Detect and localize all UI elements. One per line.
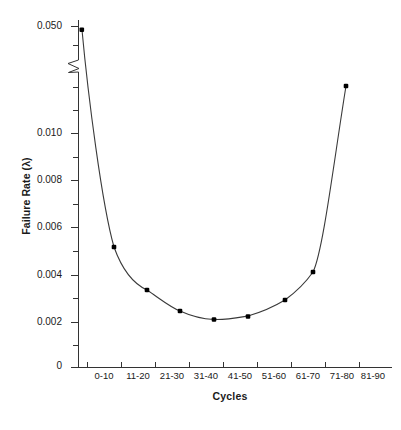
data-series-line [82,30,346,320]
chart-figure: Failure Rate (λ) 0.050 0.010 0.008 0.006… [0,0,401,430]
y-axis-minor-ticks [73,46,79,346]
y-tick-label: 0.004 [10,270,62,280]
y-tick-label: 0.050 [10,21,62,31]
data-point [283,298,288,303]
x-tick-label: 81-90 [350,370,396,381]
y-tick-label: 0 [10,361,62,371]
axis-break-icon [68,60,79,73]
data-point [80,28,85,33]
y-tick-label: 0.006 [10,222,62,232]
data-point [311,270,316,275]
axis-spines [79,20,393,368]
data-point-markers [80,28,349,322]
data-point [145,288,150,293]
y-tick-label: 0.002 [10,317,62,327]
x-axis-title: Cycles [70,390,390,402]
data-point [178,309,183,314]
y-tick-label: 0.008 [10,175,62,185]
data-point [344,84,349,89]
data-point [246,314,251,319]
caption-remnant [12,416,392,426]
y-axis-tick-labels: 0.050 0.010 0.008 0.006 0.004 0.002 0 [0,0,62,430]
y-tick-label: 0.010 [10,128,62,138]
y-axis-major-ticks [71,27,79,368]
data-point [212,317,217,322]
data-point [112,245,117,250]
x-axis-ticks [88,362,360,368]
